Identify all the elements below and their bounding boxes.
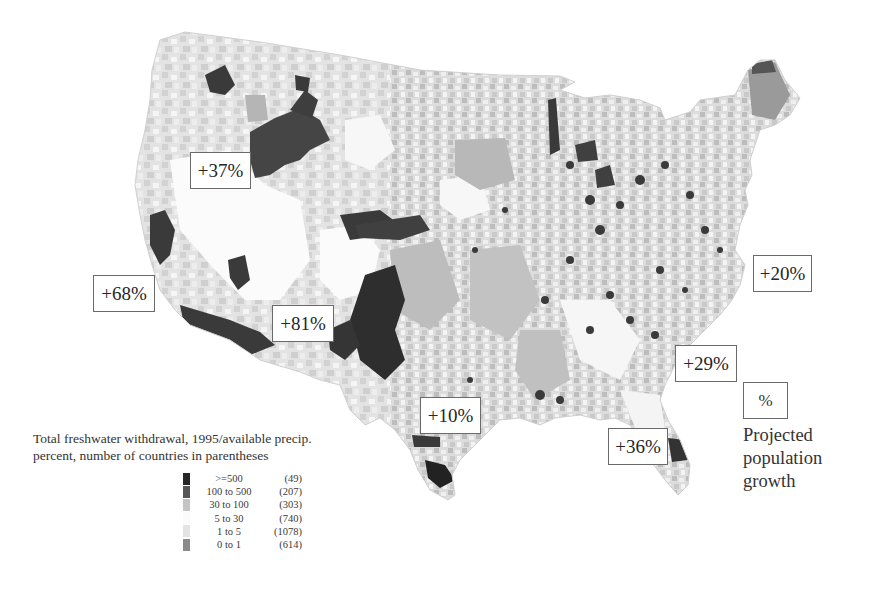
- growth-label-florida: +36%: [608, 428, 668, 465]
- legend-count: (1078): [262, 526, 302, 537]
- growth-key-caption-line1: Projected: [743, 424, 822, 447]
- legend-swatch: [183, 525, 190, 537]
- legend-row: 0 to 1 (614): [183, 538, 302, 551]
- growth-label-northwest: +37%: [190, 152, 251, 189]
- legend-row: 1 to 5 (1078): [183, 525, 302, 538]
- growth-label-southwest: +81%: [272, 305, 334, 342]
- legend-row: >=500 (49): [183, 472, 302, 485]
- legend-swatch: [183, 473, 190, 485]
- legend-title: Total freshwater withdrawal, 1995/availa…: [33, 430, 312, 464]
- legend-title-line1: Total freshwater withdrawal, 1995/availa…: [33, 430, 312, 447]
- legend: >=500 (49) 100 to 500 (207) 30 to 100 (3…: [183, 472, 302, 551]
- legend-range: 100 to 500: [196, 486, 262, 497]
- growth-label-northeast: +20%: [753, 255, 812, 292]
- growth-key-caption: Projected population growth: [743, 424, 822, 493]
- legend-swatch: [183, 486, 190, 498]
- legend-count: (740): [262, 513, 302, 524]
- legend-range: 0 to 1: [196, 539, 262, 550]
- legend-swatch: [183, 539, 190, 551]
- legend-swatch: [183, 512, 190, 524]
- legend-row: 100 to 500 (207): [183, 485, 302, 498]
- growth-key-caption-line2: population: [743, 447, 822, 470]
- growth-label-california: +68%: [93, 275, 155, 312]
- growth-label-texas: +10%: [420, 397, 481, 434]
- legend-count: (49): [262, 473, 302, 484]
- legend-count: (303): [262, 499, 302, 510]
- growth-label-southeast: +29%: [675, 345, 737, 382]
- legend-row: 5 to 30 (740): [183, 512, 302, 525]
- legend-range: >=500: [196, 473, 262, 484]
- legend-range: 1 to 5: [196, 526, 262, 537]
- growth-key-box: %: [743, 382, 788, 419]
- legend-title-line2: percent, number of countries in parenthe…: [33, 447, 312, 464]
- growth-key-caption-line3: growth: [743, 470, 822, 493]
- legend-row: 30 to 100 (303): [183, 498, 302, 511]
- legend-count: (207): [262, 486, 302, 497]
- legend-range: 30 to 100: [196, 499, 262, 510]
- legend-count: (614): [262, 539, 302, 550]
- legend-swatch: [183, 499, 190, 511]
- legend-range: 5 to 30: [196, 513, 262, 524]
